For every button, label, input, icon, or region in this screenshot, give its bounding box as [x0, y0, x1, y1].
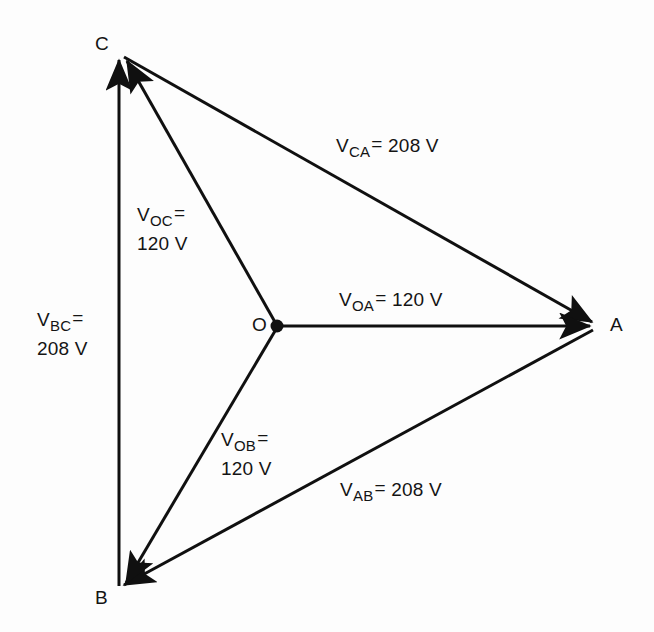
phasor-label-VOA-subscript: OA	[352, 297, 374, 314]
phasor-arrow-VAB	[124, 330, 593, 585]
phasor-label-VOC-equals: =	[174, 202, 185, 223]
phasor-label-VAB-value: 208 V	[391, 479, 442, 500]
phasor-label-VOA: VOA= 120 V	[339, 285, 443, 318]
phasor-arrow-VCA	[124, 57, 592, 322]
phasor-label-VCA-subscript: CA	[349, 143, 370, 160]
phasor-label-VOA-symbol: V	[339, 289, 352, 310]
phasor-label-VOC-value: 120 V	[137, 231, 188, 256]
phasor-label-VCA-symbol: V	[336, 135, 349, 156]
phasor-label-VOA-equals: =	[375, 287, 386, 308]
phasor-label-VBC-equals: =	[72, 307, 83, 328]
neutral-node-dot	[271, 320, 284, 333]
vertex-label-C: C	[95, 31, 109, 56]
phasor-label-VAB-equals: =	[375, 477, 386, 498]
phasor-label-VBC-value: 208 V	[37, 336, 88, 361]
phasor-label-VCA: VCA= 208 V	[336, 131, 439, 164]
vertex-label-B: B	[95, 585, 108, 610]
phasor-label-VAB-symbol: V	[340, 479, 353, 500]
phasor-label-VAB: VAB= 208 V	[340, 475, 442, 508]
phasor-label-VBC-symbol: V	[37, 309, 50, 330]
vertex-label-A: A	[610, 312, 623, 337]
phasor-label-VOB: VOB= 120 V	[221, 425, 272, 481]
phasor-label-VOC-subscript: OC	[150, 212, 173, 229]
phasor-label-VOB-value: 120 V	[221, 456, 272, 481]
phasor-label-VOC-symbol: V	[137, 204, 150, 225]
vertex-label-O: O	[252, 312, 267, 337]
phasor-label-VOB-symbol: V	[221, 429, 234, 450]
phasor-label-VOA-value: 120 V	[392, 289, 443, 310]
phasor-label-VAB-subscript: AB	[353, 487, 374, 504]
phasor-label-VCA-equals: =	[371, 133, 382, 154]
phasor-label-VBC: VBC= 208 V	[37, 305, 88, 361]
phasor-label-VCA-value: 208 V	[388, 135, 439, 156]
phasor-label-VBC-subscript: BC	[50, 317, 71, 334]
phasor-label-VOB-subscript: OB	[234, 437, 256, 454]
phasor-diagram: C A B O VCA= 208 V VOC= 120 V VBC= 208 V…	[0, 0, 654, 632]
phasor-label-VOB-equals: =	[257, 427, 268, 448]
phasor-diagram-canvas	[0, 0, 654, 632]
phasor-label-VOC: VOC= 120 V	[137, 200, 188, 256]
